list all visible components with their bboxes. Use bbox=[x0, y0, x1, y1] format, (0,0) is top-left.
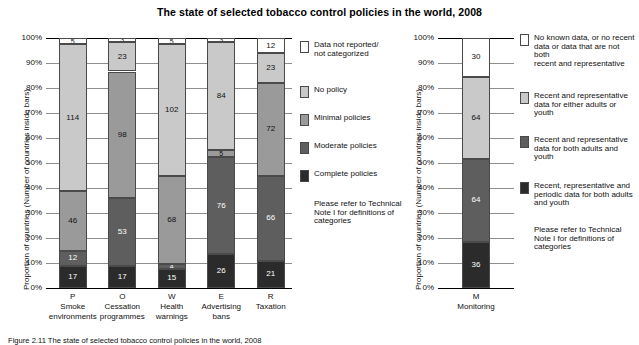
left-bar-segment[interactable]: 4 bbox=[158, 264, 186, 269]
right-x-label-name: Monitoring bbox=[432, 302, 520, 312]
right-legend-item[interactable]: Recent and representative data for eithe… bbox=[520, 92, 635, 118]
left-tick-label: 50% bbox=[10, 158, 42, 167]
left-legend-label: No policy bbox=[314, 86, 347, 95]
left-bar-segment[interactable]: 12 bbox=[59, 251, 87, 266]
right-bar[interactable]: 36646430 bbox=[462, 38, 490, 288]
right-bar-segment[interactable]: 30 bbox=[462, 38, 490, 77]
right-legend-swatch-no-policy-icon bbox=[520, 92, 529, 104]
left-legend-label: Data not reported/ not categorized bbox=[314, 41, 378, 58]
left-segment-value: 17 bbox=[68, 273, 77, 281]
left-legend-item[interactable]: Moderate policies bbox=[300, 142, 415, 154]
left-bar[interactable]: 1712461145 bbox=[59, 38, 87, 288]
left-bar-segment[interactable]: 68 bbox=[158, 176, 186, 264]
right-tick-label: 100% bbox=[402, 33, 434, 42]
left-bar-segment[interactable]: 72 bbox=[257, 83, 285, 176]
left-bar[interactable]: 154681025 bbox=[158, 38, 186, 288]
left-segment-value: 26 bbox=[217, 267, 226, 275]
right-legend-swatch-complete-icon bbox=[520, 182, 529, 194]
left-segment-value: 72 bbox=[266, 125, 275, 133]
left-segment-value: 76 bbox=[217, 202, 226, 210]
left-bar-segment[interactable]: 5 bbox=[207, 150, 235, 156]
left-bar-segment[interactable]: 26 bbox=[207, 254, 235, 288]
right-legend-label: Recent and representative data for both … bbox=[534, 136, 628, 162]
left-segment-value: 102 bbox=[165, 106, 178, 114]
left-bar-segment[interactable]: 5 bbox=[59, 38, 87, 44]
figure-caption: Figure 2.11 The state of selected tobacc… bbox=[8, 336, 633, 345]
left-bar[interactable]: 175398233 bbox=[108, 38, 136, 288]
right-bar-segment[interactable]: 64 bbox=[462, 77, 490, 159]
right-bar-segment[interactable]: 64 bbox=[462, 159, 490, 241]
left-tick-label: 70% bbox=[10, 108, 42, 117]
left-segment-value: 114 bbox=[66, 114, 79, 122]
left-chart-panel: Proportion of countries (Number of count… bbox=[0, 0, 300, 344]
left-bar-segment[interactable]: 76 bbox=[207, 157, 235, 255]
left-legend-label: Complete policies bbox=[314, 170, 377, 179]
left-bar-segment[interactable]: 3 bbox=[108, 38, 136, 42]
right-legend-item[interactable]: Recent, representative and periodic data… bbox=[520, 182, 635, 208]
left-legend-item[interactable]: Minimal policies bbox=[300, 114, 415, 126]
left-segment-value: 5 bbox=[170, 38, 174, 44]
left-bar-segment[interactable]: 3 bbox=[207, 38, 235, 42]
right-legend-swatch-not-reported-icon bbox=[520, 34, 529, 46]
left-bar-segment[interactable]: 15 bbox=[158, 269, 186, 288]
right-segment-value: 64 bbox=[472, 114, 481, 122]
left-bar-segment[interactable]: 17 bbox=[108, 266, 136, 288]
left-segment-value: 15 bbox=[167, 274, 176, 282]
right-tick-label: 0% bbox=[402, 283, 434, 292]
left-bar-segment[interactable]: 53 bbox=[108, 198, 136, 266]
left-bar-segment[interactable]: 21 bbox=[257, 261, 285, 288]
left-legend-item[interactable]: No policy bbox=[300, 86, 415, 98]
left-tick-label: 90% bbox=[10, 58, 42, 67]
right-tick-label: 40% bbox=[402, 183, 434, 192]
right-segment-value: 36 bbox=[472, 261, 481, 269]
right-legend-label: No known data, or no recent data or data… bbox=[534, 34, 635, 68]
right-legend-label: Recent, representative and periodic data… bbox=[534, 182, 633, 208]
left-bar-segment[interactable]: 23 bbox=[108, 42, 136, 72]
right-legend-item[interactable]: Recent and representative data for both … bbox=[520, 136, 635, 162]
right-x-label-letter: M bbox=[432, 292, 520, 302]
left-tick-label: 0% bbox=[10, 283, 42, 292]
left-segment-value: 53 bbox=[118, 228, 127, 236]
left-bar-segment[interactable]: 114 bbox=[59, 44, 87, 191]
right-tick-label: 60% bbox=[402, 133, 434, 142]
left-segment-value: 23 bbox=[266, 64, 275, 72]
right-tick-label: 70% bbox=[402, 108, 434, 117]
left-bar-segment[interactable]: 66 bbox=[257, 176, 285, 261]
left-bar-segment[interactable]: 98 bbox=[108, 72, 136, 198]
left-legend-swatch-moderate-icon bbox=[300, 142, 309, 154]
left-legend-swatch-minimal-icon bbox=[300, 114, 309, 126]
right-x-label: MMonitoring bbox=[432, 292, 520, 312]
left-segment-value: 12 bbox=[68, 254, 77, 262]
left-bar-segment[interactable]: 102 bbox=[158, 44, 186, 175]
left-legend: Data not reported/ not categorizedNo pol… bbox=[300, 38, 408, 278]
left-bar[interactable]: 26765843 bbox=[207, 38, 235, 288]
left-segment-value: 3 bbox=[120, 38, 124, 42]
left-bar-segment[interactable]: 46 bbox=[59, 191, 87, 250]
left-bar-segment[interactable]: 17 bbox=[59, 266, 87, 288]
right-legend-item[interactable]: No known data, or no recent data or data… bbox=[520, 34, 635, 68]
left-x-label-name: Taxation bbox=[240, 302, 302, 312]
left-tick-label: 80% bbox=[10, 83, 42, 92]
left-legend-item[interactable]: Data not reported/ not categorized bbox=[300, 41, 415, 58]
right-gridline bbox=[438, 288, 514, 289]
left-segment-value: 4 bbox=[170, 264, 174, 269]
right-bar-segment[interactable]: 36 bbox=[462, 242, 490, 288]
left-segment-value: 12 bbox=[266, 42, 275, 50]
left-bar-segment[interactable]: 12 bbox=[257, 38, 285, 53]
left-bar-segment[interactable]: 84 bbox=[207, 42, 235, 150]
left-segment-value: 17 bbox=[118, 273, 127, 281]
left-bar-segment[interactable]: 5 bbox=[158, 38, 186, 44]
left-bar-segment[interactable]: 23 bbox=[257, 53, 285, 83]
left-legend-item[interactable]: Complete policies bbox=[300, 170, 415, 182]
right-legend-swatch-moderate-icon bbox=[520, 136, 529, 148]
left-segment-value: 3 bbox=[219, 38, 223, 42]
right-tick-label: 80% bbox=[402, 83, 434, 92]
right-segment-value: 64 bbox=[472, 196, 481, 204]
left-gridline bbox=[46, 288, 292, 289]
right-legend-note: Please refer to Technical Note I for def… bbox=[534, 226, 639, 252]
left-x-label: RTaxation bbox=[240, 292, 302, 312]
left-bar[interactable]: 2166722312 bbox=[257, 38, 285, 288]
left-tick-label: 100% bbox=[10, 33, 42, 42]
left-segment-value: 21 bbox=[266, 270, 275, 278]
right-legend: No known data, or no recent data or data… bbox=[520, 30, 638, 280]
